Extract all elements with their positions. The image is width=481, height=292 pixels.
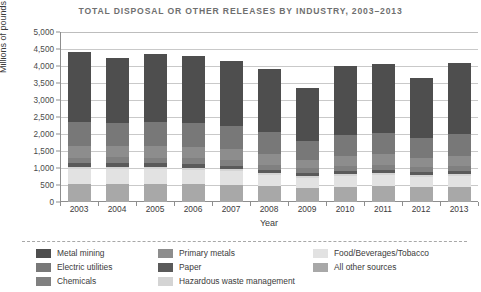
legend-column: Metal miningElectric utilitiesChemicals [36, 248, 158, 286]
bar-segment [296, 178, 319, 188]
y-axis-tick-label: 3,000 [34, 96, 55, 105]
bar-2003 [68, 52, 91, 202]
bar-segment [372, 175, 395, 186]
bar-segment [144, 146, 167, 157]
bar-segment [258, 154, 281, 164]
x-axis-tick-label: 2007 [212, 204, 250, 214]
legend-swatch-icon [158, 277, 173, 286]
bar-segment [410, 177, 433, 187]
bar-segment [182, 123, 205, 147]
y-axis-tick-label: 1,500 [34, 147, 55, 156]
bar-segment [372, 186, 395, 202]
legend-label: Primary metals [179, 248, 235, 258]
legend-swatch-icon [158, 249, 173, 258]
legend-item[interactable]: Chemicals [36, 276, 158, 286]
bar-segment [448, 176, 471, 187]
legend-column: Primary metalsPaperHazardous waste manag… [158, 248, 313, 286]
bar-segment [448, 134, 471, 155]
legend-item[interactable]: Electric utilities [36, 262, 158, 272]
chart-title: TOTAL DISPOSAL OR OTHER RELEASES BY INDU… [0, 6, 481, 16]
legend-item[interactable]: All other sources [313, 262, 429, 272]
bar-segment [334, 187, 357, 202]
legend-label: Metal mining [57, 248, 104, 258]
bar-segment [182, 56, 205, 123]
legend-swatch-icon [36, 277, 51, 286]
legend-label: Hazardous waste management [179, 276, 295, 286]
chart-figure: TOTAL DISPOSAL OR OTHER RELEASES BY INDU… [0, 0, 481, 292]
bar-segment [182, 147, 205, 158]
y-axis-tick-label: 2,500 [34, 113, 55, 122]
bar-segment [334, 176, 357, 187]
bar-segment [296, 188, 319, 202]
x-axis-tick-label: 2009 [288, 204, 326, 214]
bar-segment [372, 154, 395, 164]
bar-segment [258, 69, 281, 132]
y-axis-tick-label: 0 [49, 198, 54, 207]
bar-segment [410, 158, 433, 167]
legend-item[interactable]: Food/Beverages/Tobacco [313, 248, 429, 258]
legend-divider [22, 241, 467, 242]
legend-item[interactable]: Primary metals [158, 248, 313, 258]
bar-segment [258, 186, 281, 202]
bar-segment [448, 63, 471, 135]
bar-segment [68, 169, 91, 184]
x-axis-tick-label: 2010 [326, 204, 364, 214]
x-axis-tick-label: 2004 [98, 204, 136, 214]
bar-segment [220, 185, 243, 202]
bars-container [60, 32, 478, 202]
bar-2013 [448, 63, 471, 202]
bar-segment [144, 122, 167, 146]
legend-item[interactable]: Paper [158, 262, 313, 272]
bar-segment [106, 146, 129, 157]
bar-segment [220, 171, 243, 185]
plot-area-wrapper [60, 32, 478, 202]
y-axis-tick-label: 4,000 [34, 62, 55, 71]
bar-2010 [334, 66, 357, 202]
bar-segment [68, 52, 91, 122]
bar-segment [296, 160, 319, 169]
y-axis-ticks: 5,0004,5004,0003,5003,0002,5002,0001,500… [0, 32, 60, 202]
bar-segment [296, 88, 319, 140]
x-axis-tick-label: 2011 [364, 204, 402, 214]
bar-segment [220, 149, 243, 160]
y-axis-tick-label: 500 [40, 181, 54, 190]
bar-segment [410, 187, 433, 202]
legend-swatch-icon [36, 249, 51, 258]
x-axis-tick-label: 2006 [174, 204, 212, 214]
x-axis-tick-label: 2013 [440, 204, 478, 214]
bar-2012 [410, 78, 433, 202]
bar-segment [68, 146, 91, 157]
bar-segment [106, 184, 129, 202]
bar-segment [296, 141, 319, 160]
legend-swatch-icon [313, 249, 328, 258]
x-axis-tick-label: 2008 [250, 204, 288, 214]
legend-swatch-icon [36, 263, 51, 272]
bar-segment [106, 169, 129, 184]
y-axis-tick-label: 4,500 [34, 45, 55, 54]
bar-segment [182, 170, 205, 184]
x-axis-labels: 2003200420052006200720082009201020112012… [60, 204, 478, 218]
bar-2009 [296, 88, 319, 202]
bar-segment [220, 126, 243, 149]
x-axis-tick-label: 2003 [60, 204, 98, 214]
legend-label: Chemicals [57, 276, 96, 286]
bar-segment [106, 58, 129, 123]
bar-segment [372, 133, 395, 155]
bar-segment [182, 184, 205, 202]
bar-segment [68, 122, 91, 146]
legend: Metal miningElectric utilitiesChemicalsP… [36, 248, 466, 286]
legend-item[interactable]: Metal mining [36, 248, 158, 258]
bar-segment [410, 138, 433, 158]
legend-label: Paper [179, 262, 201, 272]
bar-2005 [144, 54, 167, 202]
bar-segment [144, 184, 167, 202]
bar-2008 [258, 69, 281, 202]
x-axis-tick-mark [478, 202, 479, 206]
legend-item[interactable]: Hazardous waste management [158, 276, 313, 286]
bar-segment [334, 66, 357, 135]
bar-segment [410, 78, 433, 138]
bar-segment [258, 132, 281, 154]
bar-segment [334, 135, 357, 156]
legend-column: Food/Beverages/TobaccoAll other sources [313, 248, 429, 286]
x-axis-tick-label: 2005 [136, 204, 174, 214]
